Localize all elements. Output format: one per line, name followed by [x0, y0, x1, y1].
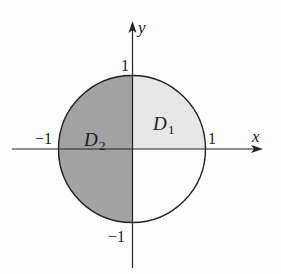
tick-y-pos: 1	[121, 57, 129, 74]
tick-x-neg: −1	[35, 130, 52, 147]
region-d1	[132, 75, 205, 149]
region-d2-label: D	[83, 129, 98, 150]
tick-x-pos: 1	[208, 130, 216, 147]
x-axis-label: x	[251, 127, 260, 146]
diagram-svg: x y 1 −1 1 −1 D 1 D 2	[0, 0, 281, 274]
region-d1-subscript: 1	[168, 122, 175, 137]
unit-disk-diagram: x y 1 −1 1 −1 D 1 D 2	[0, 0, 281, 274]
region-d1-label: D	[152, 113, 167, 134]
region-d2-subscript: 2	[99, 138, 106, 153]
y-axis-label: y	[136, 18, 146, 37]
tick-y-neg: −1	[108, 228, 125, 245]
